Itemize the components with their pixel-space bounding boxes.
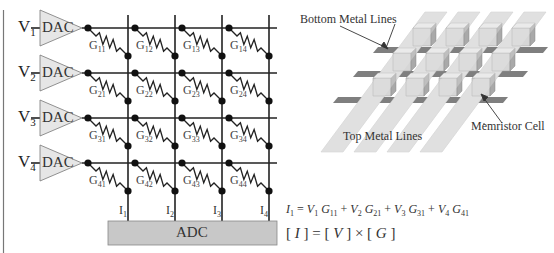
junction-dot xyxy=(218,97,225,104)
voltage-label-2: V2 xyxy=(18,62,36,83)
voltage-label-4: V4 xyxy=(18,152,36,173)
conductance-label-24: G24 xyxy=(230,83,247,99)
conductance-label-11: G11 xyxy=(89,38,105,54)
conductance-label-12: G12 xyxy=(136,38,153,54)
junction-dot xyxy=(124,142,131,149)
junction-dot xyxy=(265,52,272,59)
current-label-3: I3 xyxy=(213,203,221,219)
junction-dot xyxy=(265,187,272,194)
conductance-label-34: G34 xyxy=(230,128,247,144)
junction-dot xyxy=(131,24,138,31)
junction-dot xyxy=(171,187,178,194)
conductance-label-42: G42 xyxy=(136,173,153,189)
label-memristor-cell: Memristor Cell xyxy=(471,119,545,134)
junction-dot xyxy=(225,24,232,31)
junction-dot xyxy=(124,187,131,194)
equation-matrix: [ I ] = [ V ] × [ G ] xyxy=(286,225,395,242)
junction-dot xyxy=(218,142,225,149)
current-label-2: I2 xyxy=(166,203,174,219)
conductance-label-23: G23 xyxy=(183,83,200,99)
arrow-bottom-lines-shaft xyxy=(340,26,387,48)
dac-label-2: DAC xyxy=(42,64,74,81)
junction-dot xyxy=(124,52,131,59)
junction-dot xyxy=(84,24,91,31)
conductance-label-43: G43 xyxy=(183,173,200,189)
dac-label-1: DAC xyxy=(42,19,74,36)
junction-dot xyxy=(265,142,272,149)
junction-dot xyxy=(131,69,138,76)
junction-dot xyxy=(171,52,178,59)
conductance-label-31: G31 xyxy=(89,128,106,144)
arrow-bottom-lines xyxy=(386,24,395,48)
junction-dot xyxy=(171,142,178,149)
junction-dot xyxy=(124,97,131,104)
label-top-metal-lines: Top Metal Lines xyxy=(343,129,422,144)
junction-dot xyxy=(265,97,272,104)
junction-dot xyxy=(171,97,178,104)
junction-dot xyxy=(178,159,185,166)
current-label-4: I4 xyxy=(260,203,268,219)
conductance-label-14: G14 xyxy=(230,38,247,54)
junction-dot xyxy=(218,187,225,194)
voltage-label-1: V1 xyxy=(18,17,36,38)
junction-dot xyxy=(131,114,138,121)
junction-dot xyxy=(131,159,138,166)
conductance-label-41: G41 xyxy=(89,173,106,189)
conductance-label-21: G21 xyxy=(89,83,106,99)
dac-label-4: DAC xyxy=(42,154,74,171)
junction-dot xyxy=(84,114,91,121)
junction-dot xyxy=(178,24,185,31)
junction-dot xyxy=(178,69,185,76)
label-bottom-metal-lines: Bottom Metal Lines xyxy=(300,12,397,27)
junction-dot xyxy=(218,52,225,59)
adc-label: ADC xyxy=(176,224,208,241)
conductance-label-13: G13 xyxy=(183,38,200,54)
equation-current: I1 = V1 G11 + V2 G21 + V3 G31 + V4 G41 xyxy=(286,202,469,218)
junction-dot xyxy=(178,114,185,121)
voltage-label-3: V3 xyxy=(18,107,36,128)
junction-dot xyxy=(84,159,91,166)
conductance-label-44: G44 xyxy=(230,173,247,189)
junction-dot xyxy=(225,114,232,121)
conductance-label-32: G32 xyxy=(136,128,153,144)
junction-dot xyxy=(84,69,91,76)
junction-dot xyxy=(225,159,232,166)
current-label-1: I1 xyxy=(119,203,127,219)
dac-label-3: DAC xyxy=(42,109,74,126)
junction-dot xyxy=(225,69,232,76)
conductance-label-33: G33 xyxy=(183,128,200,144)
conductance-label-22: G22 xyxy=(136,83,153,99)
